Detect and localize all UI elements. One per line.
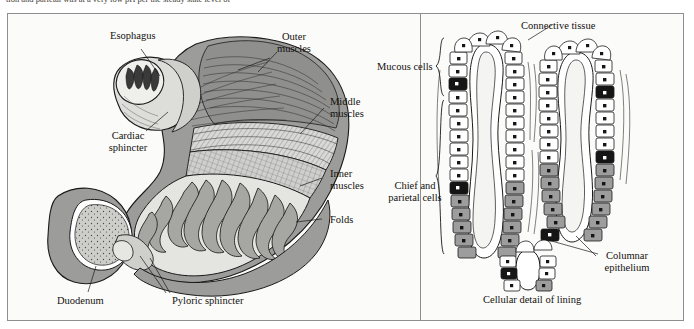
- label-outer-muscles-line2: muscles: [277, 43, 311, 54]
- label-middle-muscles-line2: muscles: [330, 108, 364, 119]
- label-columnar-line2: epithelium: [605, 262, 650, 273]
- label-folds: Folds: [330, 214, 353, 226]
- figure-page: tion and parietal was at a very low pH p…: [0, 0, 694, 329]
- label-outer-muscles-line1: Outer: [282, 31, 306, 42]
- label-inner-muscles: Innermuscles: [330, 168, 364, 191]
- label-chief-parietal-line1: Chief and: [394, 180, 435, 191]
- label-middle-muscles: Middlemuscles: [330, 96, 364, 119]
- label-columnar-epithelium: Columnarepithelium: [592, 250, 662, 273]
- label-connective-tissue: Connective tissue: [521, 20, 595, 32]
- label-outer-muscles: Outermuscles: [266, 31, 322, 54]
- figure-frame: [7, 13, 684, 321]
- label-cardiac-sphincter-line1: Cardiac: [112, 130, 145, 141]
- label-columnar-line1: Columnar: [606, 250, 648, 261]
- panel-divider: [420, 14, 421, 320]
- label-inner-muscles-line2: muscles: [330, 180, 364, 191]
- caption-cellular-detail: Cellular detail of lining: [483, 294, 581, 305]
- label-chief-parietal-cells: Chief andparietal cells: [377, 180, 453, 203]
- label-mucous-cells: Mucous cells: [377, 61, 433, 73]
- label-pyloric-sphincter: Pyloric sphincter: [172, 295, 243, 307]
- label-cardiac-sphincter: Cardiacsphincter: [96, 130, 160, 153]
- label-middle-muscles-line1: Middle: [330, 96, 360, 107]
- label-inner-muscles-line1: Inner: [330, 168, 352, 179]
- label-duodenum: Duodenum: [57, 295, 104, 307]
- running-body-text: tion and parietal was at a very low pH p…: [6, 0, 666, 4]
- label-esophagus: Esophagus: [110, 30, 156, 42]
- label-chief-parietal-line2: parietal cells: [388, 192, 441, 203]
- label-cardiac-sphincter-line2: sphincter: [109, 142, 148, 153]
